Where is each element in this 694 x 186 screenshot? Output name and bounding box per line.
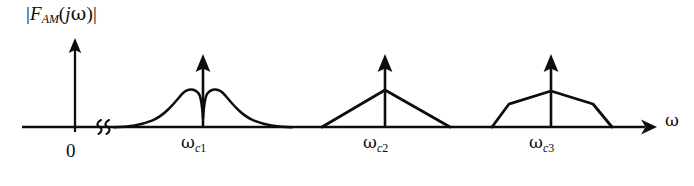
title-f: F bbox=[30, 3, 42, 24]
carrier-impulse-wc3 bbox=[544, 54, 559, 127]
tick-omega-wc3: ω bbox=[529, 132, 543, 152]
tick-label-wc1: ωc1 bbox=[181, 132, 206, 156]
title-bar-right: | bbox=[93, 3, 97, 24]
tick-omega-wc1: ω bbox=[181, 132, 195, 152]
am-spectrum-figure: |FAM(jω)| 0 ω ωc1 ωc2 ωc3 bbox=[0, 0, 694, 186]
x-axis-label: ω bbox=[665, 110, 679, 130]
y-axis-title: |FAM(jω)| bbox=[26, 2, 97, 27]
y-axis bbox=[69, 38, 81, 132]
title-omega: ω bbox=[71, 2, 87, 24]
origin-label: 0 bbox=[66, 140, 76, 162]
tick-sub-n-wc3: 3 bbox=[548, 141, 554, 155]
tick-label-wc3: ωc3 bbox=[529, 132, 554, 156]
tick-sub-n-wc1: 1 bbox=[200, 141, 206, 155]
carrier-impulse-wc2 bbox=[378, 54, 393, 127]
title-subscript-am: AM bbox=[42, 12, 59, 26]
carrier-impulse-wc1 bbox=[196, 54, 211, 127]
spectrum-plot-svg bbox=[0, 0, 694, 186]
tick-label-wc2: ωc2 bbox=[363, 132, 388, 156]
tick-sub-n-wc2: 2 bbox=[382, 141, 388, 155]
tick-omega-wc2: ω bbox=[363, 132, 377, 152]
